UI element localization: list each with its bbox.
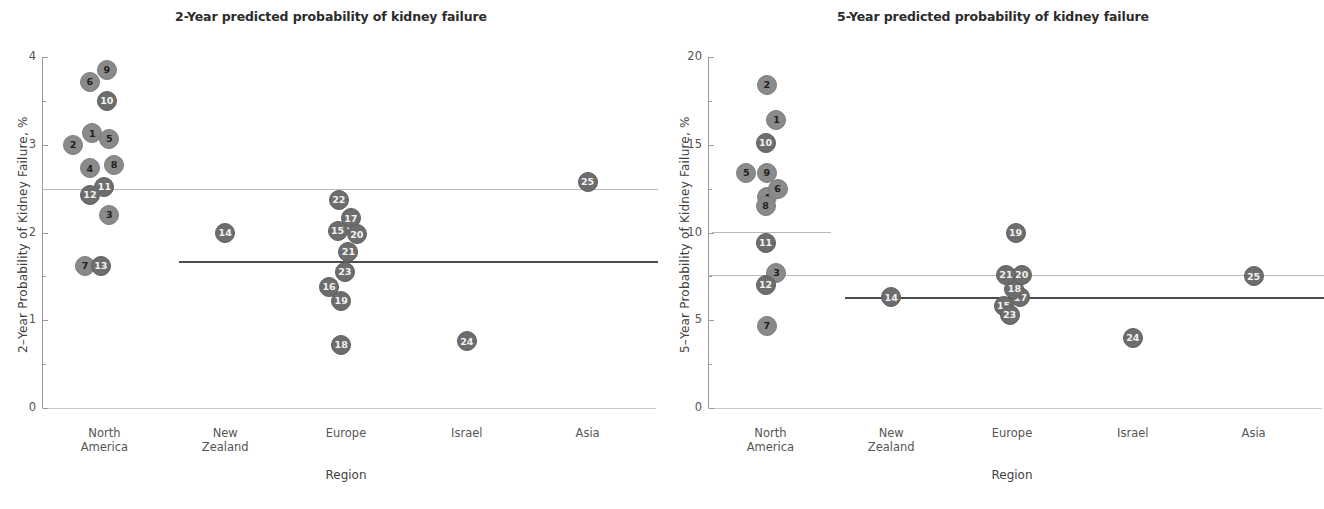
data-point-marker[interactable]: 10 [97,91,117,111]
y-axis-minor-tick [709,364,712,365]
data-point-marker[interactable]: 14 [215,223,235,243]
x-axis-category-label: NewZealand [165,426,285,454]
y-axis-tick [709,57,714,58]
chart-panel-5-year: 5-Year predicted probability of kidney f… [662,0,1324,509]
data-point-marker[interactable]: 5 [99,129,119,149]
y-axis-minor-tick [43,364,46,365]
data-point-marker[interactable]: 8 [104,155,124,175]
data-point-marker[interactable]: 8 [756,196,776,216]
x-axis-category-label: NorthAmerica [710,426,830,454]
y-axis-tick-label: 4 [6,49,36,63]
x-axis-title: Region [286,468,406,482]
y-axis-tick [43,57,48,58]
data-point-marker[interactable]: 11 [756,233,776,253]
data-point-marker[interactable]: 21 [996,265,1016,285]
y-axis-tick [43,145,48,146]
x-axis-category-label: Europe [286,426,406,440]
data-point-marker[interactable]: 9 [757,163,777,183]
data-point-marker[interactable]: 19 [1006,223,1026,243]
x-axis-line [42,408,656,409]
data-point-marker[interactable]: 4 [80,158,100,178]
x-axis-category-label: Asia [1194,426,1314,440]
overall-reference-line [42,189,658,190]
y-axis-tick [43,408,48,409]
north-america-reference-line [712,232,831,233]
data-point-marker[interactable]: 22 [329,190,349,210]
y-axis-minor-tick [709,189,712,190]
x-axis-category-label: Asia [528,426,648,440]
chart-panel-2-year: 2-Year predicted probability of kidney f… [0,0,662,509]
data-point-marker[interactable]: 14 [881,287,901,307]
data-point-marker[interactable]: 24 [457,331,477,351]
data-point-marker[interactable]: 24 [1123,328,1143,348]
chart-title-2-year: 2-Year predicted probability of kidney f… [0,9,662,24]
y-axis-tick [709,145,714,146]
data-point-marker[interactable]: 23 [335,262,355,282]
data-point-marker[interactable]: 1 [766,110,786,130]
x-axis-line [708,408,1322,409]
data-point-marker[interactable]: 2 [757,75,777,95]
y-axis-tick-label: 0 [6,400,36,414]
data-point-marker[interactable]: 19 [331,291,351,311]
y-axis-tick [43,233,48,234]
x-axis-title: Region [952,468,1072,482]
y-axis-minor-tick [43,276,46,277]
data-point-marker[interactable]: 23 [1000,305,1020,325]
data-point-marker[interactable]: 18 [331,335,351,355]
x-axis-category-label: NewZealand [831,426,951,454]
x-axis-category-label: Europe [952,426,1072,440]
data-point-marker[interactable]: 10 [756,133,776,153]
data-point-marker[interactable]: 12 [756,275,776,295]
chart-title-5-year: 5-Year predicted probability of kidney f… [662,9,1324,24]
y-axis-minor-tick [43,101,46,102]
y-axis-tick [709,408,714,409]
y-axis-tick-label: 20 [672,49,702,63]
data-point-marker[interactable]: 25 [578,172,598,192]
y-axis-title: 5–Year Probability of Kidney Failure, % [678,116,692,353]
data-point-marker[interactable]: 3 [99,205,119,225]
y-axis-tick [43,320,48,321]
y-axis-tick [709,233,714,234]
y-axis-tick-label: 0 [672,400,702,414]
pooled-estimate-line [179,261,658,263]
y-axis-tick [709,320,714,321]
data-point-marker[interactable]: 12 [80,185,100,205]
data-point-marker[interactable]: 13 [91,256,111,276]
x-axis-category-label: NorthAmerica [44,426,164,454]
data-point-marker[interactable]: 25 [1244,266,1264,286]
y-axis-title: 2–Year Probability of Kidney Failure, % [16,116,30,353]
data-point-marker[interactable]: 6 [80,72,100,92]
data-point-marker[interactable]: 2 [63,135,83,155]
data-point-marker[interactable]: 7 [757,316,777,336]
data-point-marker[interactable]: 9 [97,60,117,80]
x-axis-category-label: Israel [407,426,527,440]
data-point-marker[interactable]: 21 [338,242,358,262]
data-point-marker[interactable]: 5 [736,163,756,183]
pooled-estimate-line [845,297,1324,299]
x-axis-category-label: Israel [1073,426,1193,440]
y-axis-minor-tick [709,101,712,102]
y-axis-minor-tick [709,276,712,277]
